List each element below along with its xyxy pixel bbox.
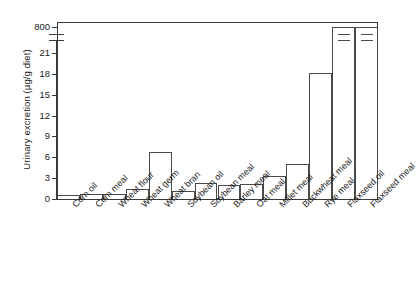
y-tick-label: 15 (22, 90, 50, 100)
y-tick-label: 6 (22, 152, 50, 162)
y-tick-label: 18 (22, 69, 50, 79)
y-tick (52, 74, 57, 75)
y-axis-break-mark (49, 40, 64, 41)
y-tick (52, 157, 57, 158)
y-tick-label: 0 (22, 194, 50, 204)
bar-break-mark (338, 34, 350, 35)
bar-break-mark (361, 34, 373, 35)
y-tick (52, 95, 57, 96)
y-tick (52, 199, 57, 200)
y-tick-label: 3 (22, 173, 50, 183)
y-tick-label: 9 (22, 131, 50, 141)
y-tick (52, 178, 57, 179)
bar-break-mark (338, 40, 350, 41)
y-tick-label: 21 (22, 48, 50, 58)
y-tick (52, 53, 57, 54)
y-tick (52, 27, 57, 28)
y-axis-break-mark (49, 34, 64, 35)
y-tick-label: 800 (22, 22, 50, 32)
y-tick (52, 116, 57, 117)
bar-break-mark (361, 40, 373, 41)
y-tick (52, 136, 57, 137)
y-tick-label: 12 (22, 111, 50, 121)
y-axis-line-lower (56, 40, 57, 199)
